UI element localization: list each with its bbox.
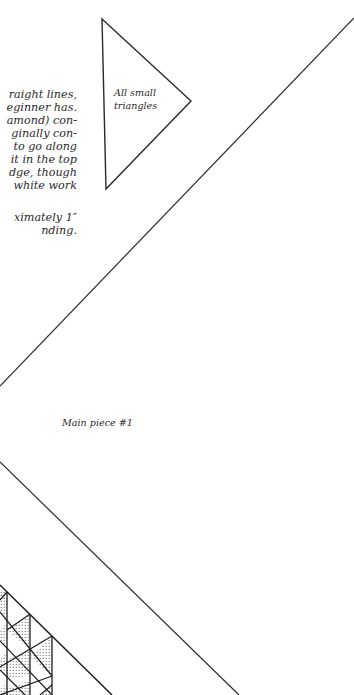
text-line: to go along bbox=[0, 140, 77, 153]
text-line: it in the top bbox=[0, 153, 77, 166]
text-line: dge, though bbox=[0, 166, 77, 179]
text-line: amond) con- bbox=[0, 114, 77, 127]
text-line: white work bbox=[0, 179, 77, 192]
main-piece-label: Main piece #1 bbox=[62, 416, 133, 429]
label-line: triangles bbox=[114, 99, 184, 112]
text-line: eginner has. bbox=[0, 101, 77, 114]
pattern-diagram-page: raight lines, eginner has. amond) con- g… bbox=[0, 0, 354, 695]
text-line: ximately 1″ bbox=[0, 211, 77, 224]
paragraph-gap bbox=[0, 192, 77, 211]
small-triangles-label: All small triangles bbox=[114, 86, 184, 112]
text-line: raight lines, bbox=[0, 88, 77, 101]
text-line: nding. bbox=[0, 224, 77, 237]
instruction-text: raight lines, eginner has. amond) con- g… bbox=[0, 88, 77, 237]
label-line: All small bbox=[114, 86, 184, 99]
text-line: ginally con- bbox=[0, 127, 77, 140]
small-triangles-grid bbox=[0, 585, 112, 695]
